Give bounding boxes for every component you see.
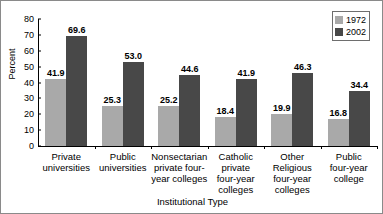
x-axis-category-label: Publicfour-yearcollege [321, 151, 378, 184]
bar-1972: 18.4 [215, 117, 236, 146]
bar-2002: 46.3 [292, 73, 313, 147]
legend-item-2002: 2002 [335, 26, 366, 38]
bar-group: 41.969.6 [38, 19, 95, 146]
legend-label-2002: 2002 [346, 27, 366, 37]
y-axis-tick-label: 40 [24, 78, 38, 88]
x-axis-tick-mark [264, 146, 265, 149]
bar-1972: 19.9 [271, 114, 292, 146]
y-axis-tick-label: 30 [24, 93, 38, 103]
y-axis-tick-label: 10 [24, 125, 38, 135]
bar-1972: 25.2 [158, 106, 179, 146]
y-axis-tick-label: 80 [24, 14, 38, 24]
bar-group: 19.946.3 [264, 19, 321, 146]
x-axis-category-label: Catholicprivatefour-yearcolleges [208, 151, 265, 195]
bar-value-label: 25.3 [103, 95, 121, 105]
bar-value-label: 34.4 [350, 80, 368, 90]
bar-2002: 69.6 [66, 36, 87, 146]
x-axis-tick-mark [151, 146, 152, 149]
x-axis-tick-mark [377, 146, 378, 149]
bar-2002: 41.9 [236, 79, 257, 146]
plot-area: 0102030405060708041.969.625.353.025.244.… [38, 19, 377, 146]
bar-value-label: 44.6 [181, 64, 199, 74]
bar-value-label: 18.4 [216, 106, 234, 116]
x-axis-category-label: Publicuniversities [95, 151, 152, 173]
bar-2002: 34.4 [349, 91, 370, 146]
x-axis-tick-mark [321, 146, 322, 149]
legend-swatch-2002 [335, 28, 343, 36]
x-axis-title: Institutional Type [1, 196, 383, 207]
x-axis-tick-mark [95, 146, 96, 149]
chart-legend: 1972 2002 [332, 11, 370, 41]
bar-1972: 25.3 [102, 106, 123, 146]
bar-value-label: 16.8 [329, 108, 347, 118]
bar-value-label: 69.6 [68, 25, 86, 35]
legend-label-1972: 1972 [346, 15, 366, 25]
bar-group: 25.244.6 [151, 19, 208, 146]
x-axis-category-label: Nonsectarianprivate four-year colleges [151, 151, 208, 184]
y-axis-tick-label: 70 [24, 30, 38, 40]
x-axis-category-label: Privateuniversities [38, 151, 95, 173]
bar-2002: 44.6 [179, 75, 200, 146]
y-axis-tick-label: 0 [29, 141, 38, 151]
x-axis-category-label: OtherReligiousfour-yearcolleges [264, 151, 321, 195]
bar-2002: 53.0 [123, 62, 144, 146]
y-axis-title: Percent [7, 32, 17, 96]
bar-value-label: 53.0 [124, 51, 142, 61]
y-axis-tick-label: 60 [24, 46, 38, 56]
y-axis-tick-label: 50 [24, 62, 38, 72]
bar-group: 18.441.9 [208, 19, 265, 146]
legend-swatch-1972 [335, 16, 343, 24]
bar-value-label: 19.9 [273, 103, 291, 113]
bar-value-label: 25.2 [160, 95, 178, 105]
y-axis-tick-label: 20 [24, 109, 38, 119]
bar-value-label: 41.9 [47, 68, 65, 78]
bar-value-label: 46.3 [294, 62, 312, 72]
bar-1972: 41.9 [45, 79, 66, 146]
x-axis-tick-mark [208, 146, 209, 149]
bar-group: 25.353.0 [95, 19, 152, 146]
bar-value-label: 41.9 [237, 68, 255, 78]
chart-figure: Percent 0102030405060708041.969.625.353.… [0, 0, 383, 214]
bar-1972: 16.8 [328, 119, 349, 146]
legend-item-1972: 1972 [335, 14, 366, 26]
